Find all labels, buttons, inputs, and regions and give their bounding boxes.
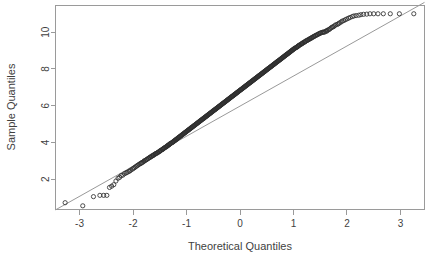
x-tick-label: 1 [291,218,297,229]
y-axis-title: Sample Quantiles [5,63,17,150]
y-tick-label: 6 [40,102,51,108]
y-tick-label: 2 [40,176,51,182]
x-tick-label: 2 [344,218,350,229]
qq-plot-figure: -3-2-10123 246810 Theoretical Quantiles … [0,0,439,261]
y-tick-label: 4 [40,139,51,145]
x-tick-label: 3 [398,218,404,229]
x-tick-label: 0 [237,218,243,229]
y-tick-label: 10 [40,26,51,38]
x-axis-title: Theoretical Quantiles [188,240,292,252]
x-tick-label: -2 [129,218,138,229]
qq-plot-canvas: -3-2-10123 246810 Theoretical Quantiles … [0,0,439,261]
x-tick-label: -1 [182,218,191,229]
x-tick-label: -3 [75,218,84,229]
y-tick-label: 8 [40,66,51,72]
figure-background [0,0,439,261]
